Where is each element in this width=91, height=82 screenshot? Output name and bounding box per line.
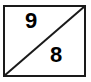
bottom-right-number: 8: [50, 44, 62, 66]
diagonal-line: [0, 0, 91, 82]
top-left-number: 9: [25, 10, 37, 32]
